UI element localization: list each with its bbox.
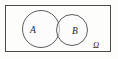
venn-diagram-figure: A B Ω <box>0 0 118 59</box>
set-label-a: A <box>29 25 36 35</box>
universe-label-omega: Ω <box>93 40 99 50</box>
venn-diagram-canvas: A B Ω <box>0 0 118 59</box>
set-label-b: B <box>72 26 78 36</box>
set-circle-a <box>23 11 60 48</box>
